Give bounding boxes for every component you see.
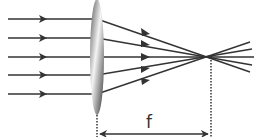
incident-rays (8, 19, 97, 94)
focal-length-label: f (146, 112, 152, 132)
convex-lens (90, 0, 104, 115)
lens-diagram (0, 0, 259, 137)
refracted-rays (97, 19, 254, 94)
